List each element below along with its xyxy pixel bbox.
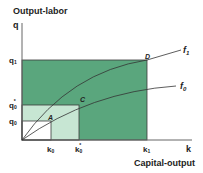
point-d-label: D [145, 53, 150, 60]
point-a-label: A [47, 114, 53, 121]
y-tick-q0: q0 [9, 117, 17, 126]
curve-f0-label: f0 [180, 81, 187, 92]
x-tick-k0: k0 [47, 145, 54, 154]
y-tick-q1: q1 [9, 56, 17, 65]
y-axis-title: Output-labor [13, 6, 68, 16]
x-axis-title: Capital-output [134, 158, 195, 168]
y-tick-q0-star: q0* [9, 98, 17, 110]
y-axis-symbol: q [13, 20, 19, 30]
x-tick-k0-star: k0* [75, 142, 82, 154]
x-axis-symbol: k [186, 144, 192, 154]
production-function-diagram: A C D f1 f0 Output-labor q Capital-outpu… [0, 0, 203, 173]
curve-f1-label: f1 [183, 45, 190, 56]
x-tick-k1: k1 [143, 145, 150, 154]
